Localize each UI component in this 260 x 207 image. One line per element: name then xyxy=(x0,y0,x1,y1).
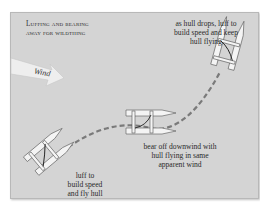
annotation-line: build speed xyxy=(60,180,110,189)
diagram-title: Luffing and bearing away for wildthing xyxy=(26,20,89,38)
annotation-line: as hull drops, luff to xyxy=(166,19,246,28)
title-line-2: away for wildthing xyxy=(26,29,89,38)
annotation-line: luff to xyxy=(60,171,110,180)
annotation-line: build speed and keep xyxy=(166,28,246,37)
catamaran-icon-middle xyxy=(126,110,176,134)
annotation-line: hull flying xyxy=(166,37,246,46)
annotation-line: and fly hull xyxy=(60,189,110,198)
annotation-bottom-left: luff to build speed and fly hull xyxy=(60,171,110,198)
catamaran-icon-start xyxy=(23,126,75,175)
annotation-line: apparent wind xyxy=(130,160,230,169)
title-line-1: Luffing and bearing xyxy=(26,20,89,29)
annotation-line: bear off downwind with xyxy=(130,142,230,151)
annotation-top-right: as hull drops, luff to build speed and k… xyxy=(166,19,246,46)
annotation-line: hull flying in same xyxy=(130,151,230,160)
annotation-middle: bear off downwind with hull flying in sa… xyxy=(130,142,230,169)
